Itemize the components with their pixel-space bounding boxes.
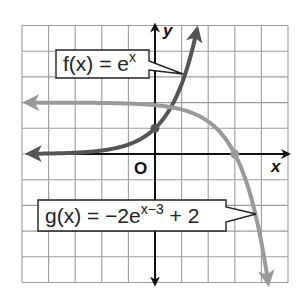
origin-label: O <box>134 159 147 178</box>
y-axis-label: y <box>162 21 174 40</box>
label-g: g(x) = −2ex−3 + 2 <box>38 200 256 231</box>
curve-f-exponential <box>30 30 197 153</box>
marked-point <box>230 150 239 159</box>
equation-text: f(x) = ex <box>63 49 136 75</box>
x-axis-label: x <box>270 157 282 176</box>
labels: f(x) = exg(x) = −2ex−3 + 2 <box>38 49 256 231</box>
marked-point <box>151 124 160 133</box>
equation-text: g(x) = −2ex−3 + 2 <box>45 201 199 227</box>
curve-g-transformed <box>27 103 268 282</box>
graph-chart: f(x) = exg(x) = −2ex−3 + 2 y x O <box>0 0 304 297</box>
label-f: f(x) = ex <box>56 49 183 78</box>
